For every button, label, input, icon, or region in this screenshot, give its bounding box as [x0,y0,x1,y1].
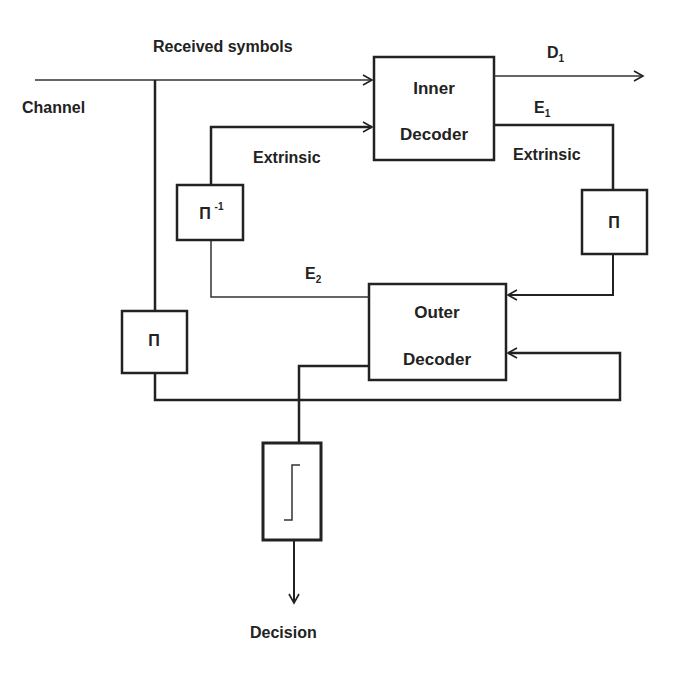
outer-decoder-label-2: Decoder [403,350,471,369]
received-symbols-label: Received symbols [153,38,293,55]
interleaver-left-symbol: Π [148,332,160,349]
interleaver-right-symbol: Π [608,214,620,231]
outer-output-path [299,366,369,443]
channel-label: Channel [22,99,85,116]
d1-label: D1 [547,44,565,64]
interleaver-left-block: Π [122,311,187,373]
extrinsic-right-label: Extrinsic [513,146,581,163]
inner-decoder-label-2: Decoder [400,125,468,144]
e2-label: E2 [305,265,322,285]
deinterleaver-block: Π -1 [177,185,243,240]
inner-decoder-block: Inner Decoder [374,57,494,160]
e1-label: E1 [534,99,551,119]
inner-decoder-label-1: Inner [413,79,455,98]
interleaver-right-block: Π [582,190,647,254]
decoder-diagram: Inner Decoder Π Outer Decoder Π -1 Π [0,0,676,676]
outer-decoder-label-1: Outer [414,303,460,322]
outer-decoder-block: Outer Decoder [369,284,506,380]
decision-label: Decision [250,624,317,641]
deinterleaver-symbol: Π [199,205,211,222]
deinterleaver-superscript: -1 [215,201,224,212]
extrinsic-left-label: Extrinsic [253,149,321,166]
hard-decision-block [263,443,321,540]
